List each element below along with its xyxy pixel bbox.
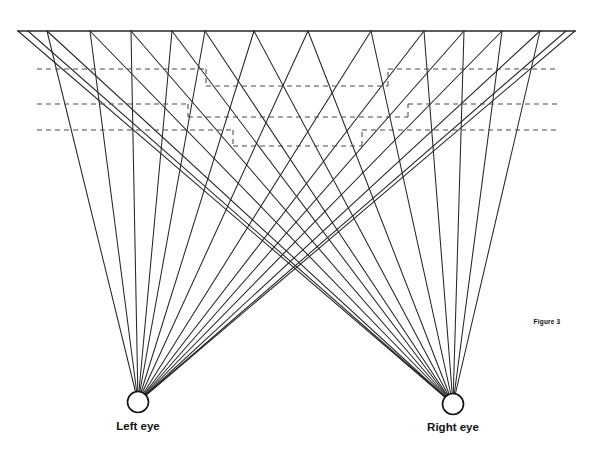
right-eye-marker: [443, 394, 464, 415]
figure-root: Left eye Right eye Figure 3: [0, 0, 592, 455]
left-eye-label: Left eye: [116, 420, 159, 432]
right-eye-label: Right eye: [427, 421, 479, 433]
figure-caption: Figure 3: [534, 318, 561, 326]
stereo-diagram: Left eye Right eye Figure 3: [0, 0, 592, 455]
figure-background: [0, 0, 592, 455]
left-eye-marker: [128, 392, 149, 413]
